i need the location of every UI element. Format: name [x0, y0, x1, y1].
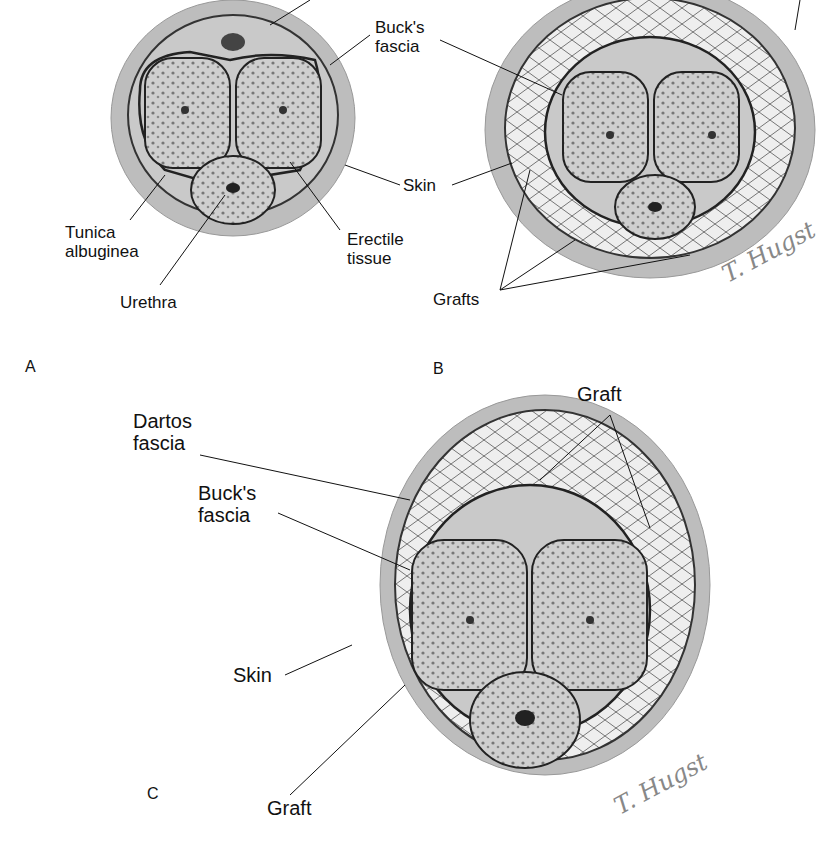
label-c-graft-top: Graft [577, 383, 621, 405]
panel-c-crosssection [200, 395, 710, 795]
label-a-erectile-tissue: Erectiletissue [347, 230, 404, 268]
label-a-skin: Skin [403, 176, 436, 195]
label-c-skin: Skin [233, 664, 272, 686]
label-c-graft-bottom: Graft [267, 797, 311, 819]
panel-label-b: B [433, 360, 444, 378]
label-c-dartos-fascia: Dartosfascia [133, 410, 192, 454]
label-a-urethra: Urethra [120, 293, 177, 312]
panel-label-c: C [147, 785, 159, 803]
label-a-tunica-albuginea: Tunicaalbuginea [65, 223, 139, 261]
label-a-bucks-fascia: Buck'sfascia [375, 18, 425, 56]
label-c-bucks-fascia: Buck'sfascia [198, 482, 256, 526]
panel-label-a: A [25, 358, 36, 376]
label-b-grafts: Grafts [433, 290, 479, 309]
anatomy-illustration [0, 0, 829, 853]
